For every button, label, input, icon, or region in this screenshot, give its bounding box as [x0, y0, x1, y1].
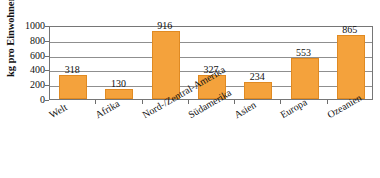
bar-chart: kg pro Einwohner 02004006008001000 31813… — [0, 0, 380, 178]
x-axis-label: Europa — [279, 96, 310, 120]
x-axis-label: Welt — [47, 101, 69, 120]
x-axis-label: Ozeanien — [325, 92, 363, 120]
x-axis-label: Nord-/Zentral-Amerika — [140, 64, 227, 120]
x-axis-label: Afrika — [94, 98, 122, 121]
x-axis-labels: WeltAfrikaNord-/Zentral-AmerikaSüdamerik… — [0, 0, 380, 178]
x-axis-label: Asien — [232, 99, 258, 120]
